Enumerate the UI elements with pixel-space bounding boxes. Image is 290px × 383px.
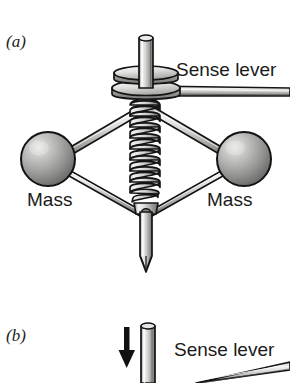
coil-spring	[130, 100, 160, 203]
panel-a: (a) Sense lever Mass Mass	[0, 0, 290, 300]
motion-arrow-down-icon	[119, 327, 136, 368]
callout-sense-lever-b: Sense lever	[174, 340, 274, 359]
panel-label-a: (a)	[6, 33, 26, 50]
panel-b: (b) Sense lever	[0, 300, 290, 383]
mass-sphere-left	[21, 132, 75, 186]
lower-shaft	[140, 212, 152, 272]
upper-shaft	[139, 35, 153, 88]
panel-a-artwork	[0, 0, 290, 300]
callout-mass-right: Mass	[207, 190, 252, 209]
figure-container: (a) Sense lever Mass Mass	[0, 0, 290, 383]
mass-sphere-right	[217, 132, 271, 186]
sense-lever-rod-tilted	[196, 362, 290, 383]
callout-sense-lever-a: Sense lever	[176, 60, 276, 79]
callout-mass-left: Mass	[27, 190, 72, 209]
linkage-arm-lower-left	[62, 166, 140, 216]
panel-label-b: (b)	[6, 327, 26, 344]
shaft	[141, 323, 155, 383]
